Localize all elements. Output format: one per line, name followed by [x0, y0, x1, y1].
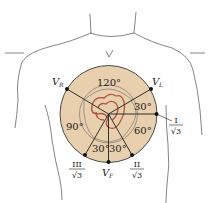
svg-text:√3: √3 [132, 171, 142, 180]
chest-lead-diagram: 120° 30° 60° 90° 30° 30° V R V L V F I √… [0, 0, 213, 203]
svg-text:√3: √3 [171, 127, 181, 136]
svg-text:I: I [174, 116, 177, 125]
svg-text:√3: √3 [72, 171, 82, 180]
svg-text:F: F [108, 172, 114, 179]
angle-label-90: 90° [66, 121, 84, 132]
angle-label-30-br: 30° [109, 143, 127, 154]
svg-text:III: III [72, 160, 81, 169]
angle-label-30-upper: 30° [134, 101, 152, 112]
label-vf: V F [102, 167, 114, 179]
svg-text:R: R [58, 81, 64, 88]
label-vr: V R [52, 76, 64, 88]
angle-label-30-bl: 30° [92, 143, 110, 154]
label-lead-iii: III √3 [69, 160, 85, 180]
svg-text:L: L [158, 81, 163, 88]
angle-label-120: 120° [97, 77, 121, 88]
label-lead-i: I √3 [169, 116, 183, 136]
label-vl: V L [152, 76, 163, 88]
label-lead-ii: II √3 [130, 160, 144, 180]
angle-label-60: 60° [134, 125, 152, 136]
svg-text:II: II [134, 160, 140, 169]
